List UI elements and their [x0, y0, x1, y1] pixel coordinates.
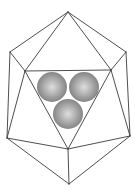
sphere-right: [69, 72, 99, 102]
sphere-bottom: [53, 99, 83, 129]
icosahedron-diagram: [0, 0, 135, 191]
background: [0, 0, 135, 191]
sphere-left: [37, 72, 67, 102]
